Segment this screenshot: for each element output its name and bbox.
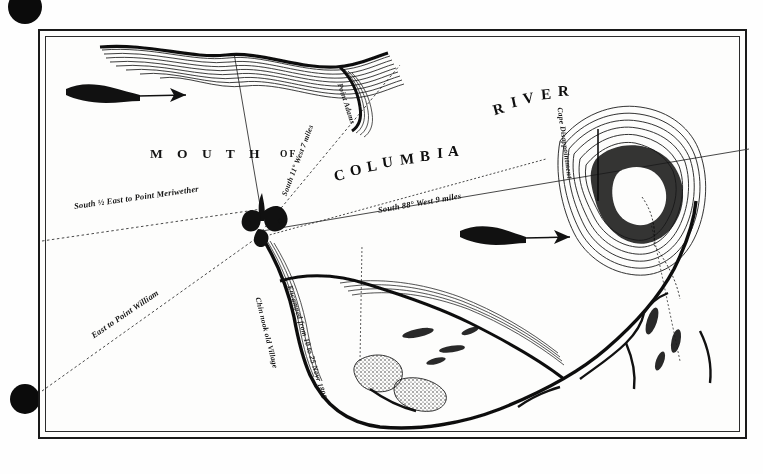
map-plate-frame: M O U T H OF C O L U M B I A R I V E R S… bbox=[38, 29, 747, 439]
map-page: M O U T H OF C O L U M B I A R I V E R S… bbox=[0, 0, 763, 474]
binder-hole-icon-top bbox=[8, 0, 42, 24]
binder-hole-icon-bottom bbox=[10, 384, 40, 414]
title-word-river: R I V E R bbox=[40, 31, 749, 441]
